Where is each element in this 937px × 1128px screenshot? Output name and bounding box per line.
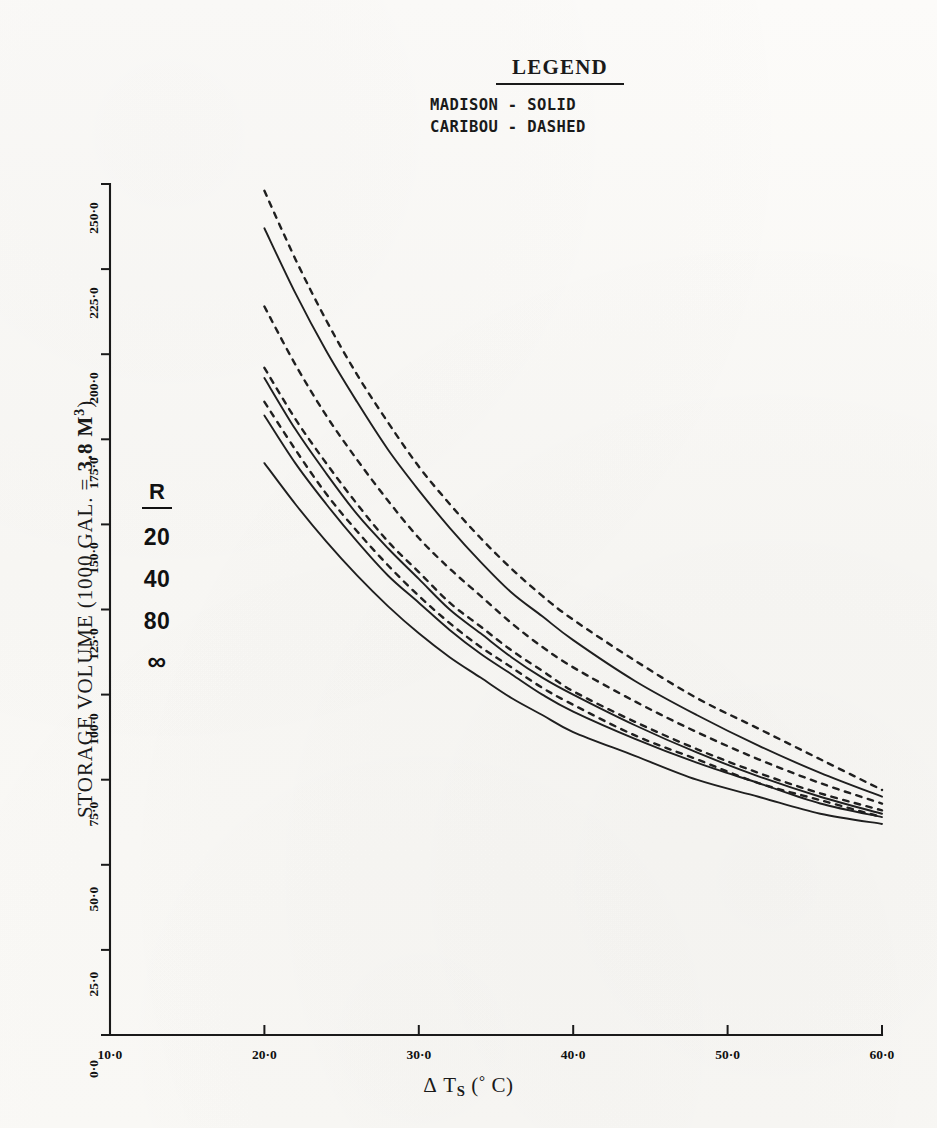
degree-icon: ° [479, 1073, 486, 1089]
data-curves [264, 191, 882, 824]
data-curve [264, 463, 882, 824]
data-curve [264, 191, 882, 790]
x-axis-subscript: S [457, 1083, 466, 1099]
y-axis-tick-label: 250·0 [86, 183, 102, 253]
y-axis-title-bold: 3.8 M [73, 416, 97, 472]
x-axis-tick-label: 30·0 [384, 1047, 454, 1063]
x-axis-tick-label: 50·0 [693, 1047, 763, 1063]
parameter-value-80: 80 [128, 608, 186, 635]
x-axis-tick-label: 10·0 [75, 1047, 145, 1063]
data-curve [264, 378, 882, 814]
y-axis-title: STORAGE VOLUME (1000 GAL. = 3.8 M3) [72, 299, 98, 919]
x-axis-unit: C [486, 1073, 506, 1097]
data-curve [264, 307, 882, 804]
x-axis-tick-label: 40·0 [538, 1047, 608, 1063]
parameter-value-20: 20 [128, 524, 186, 551]
x-axis-tick-label: 60·0 [847, 1047, 917, 1063]
y-axis-title-prefix: STORAGE VOLUME (1000 GAL. = [73, 478, 97, 818]
x-axis-unit-close: ) [506, 1073, 514, 1097]
x-axis-ticks [110, 1025, 882, 1035]
x-axis-variable: T [443, 1073, 456, 1097]
data-curve [264, 415, 882, 817]
y-axis-title-suffix: ) [73, 400, 97, 408]
y-axis-title-superscript: 3 [72, 408, 87, 416]
y-axis-tick-label: 25·0 [86, 949, 102, 1019]
data-curve [264, 402, 882, 817]
x-axis-unit-open: ( [471, 1073, 479, 1097]
parameter-value-40: 40 [128, 566, 186, 593]
x-axis-delta-symbol: Δ [423, 1073, 437, 1097]
parameter-header-r: R [142, 479, 172, 509]
parameter-legend-r: R 20 40 80 ∞ [128, 478, 186, 673]
parameter-value-infinity: ∞ [128, 650, 186, 673]
x-axis-tick-label: 20·0 [229, 1047, 299, 1063]
y-axis-ticks [101, 184, 110, 1035]
x-axis-title: Δ TS (° C) [0, 1073, 937, 1100]
